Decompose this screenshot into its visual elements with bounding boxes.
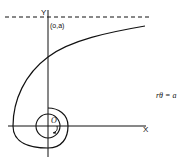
spiral-diagram: Y (o,a) O X rθ = a <box>0 0 194 157</box>
origin-label: O <box>51 116 57 125</box>
asymptote-point-label: (o,a) <box>50 22 64 30</box>
equation-label: rθ = a <box>156 91 176 100</box>
x-axis-label: X <box>143 125 149 134</box>
spiral-curve <box>13 26 145 148</box>
y-axis-label: Y <box>41 8 47 17</box>
